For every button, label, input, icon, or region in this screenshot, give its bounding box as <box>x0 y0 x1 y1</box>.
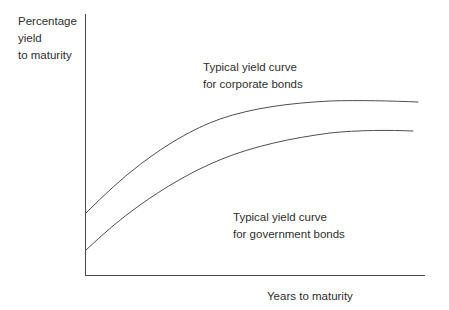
corporate-annotation-line-2: for corporate bonds <box>203 76 303 93</box>
x-axis-label: Years to maturity <box>267 288 353 305</box>
corporate-bonds-annotation: Typical yield curve for corporate bonds <box>203 59 303 93</box>
y-axis-label: Percentage yield to maturity <box>18 13 77 64</box>
y-axis-label-line-2: yield <box>18 30 77 47</box>
yield-curve-chart: Percentage yield to maturity Typical yie… <box>0 0 449 310</box>
government-annotation-line-1: Typical yield curve <box>233 209 345 226</box>
government-annotation-line-2: for government bonds <box>233 226 345 243</box>
government-bonds-annotation: Typical yield curve for government bonds <box>233 209 345 243</box>
corporate-annotation-line-1: Typical yield curve <box>203 59 303 76</box>
corporate-bonds-curve <box>86 101 418 213</box>
y-axis-label-line-1: Percentage <box>18 13 77 30</box>
y-axis-label-line-3: to maturity <box>18 47 77 64</box>
